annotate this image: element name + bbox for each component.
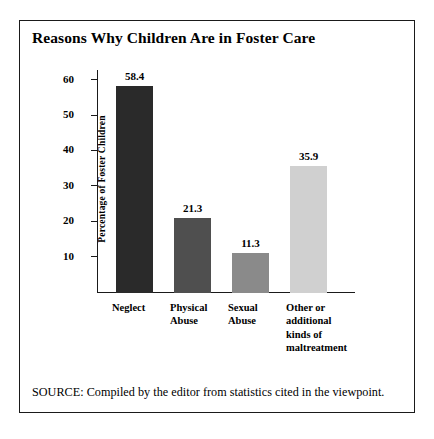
y-axis-tick-label: 50 — [34, 109, 74, 120]
y-axis-line — [97, 70, 98, 293]
y-axis-tick — [91, 221, 97, 222]
y-axis-tick — [91, 256, 97, 257]
bar — [290, 166, 327, 293]
source-note: SOURCE: Compiled by the editor from stat… — [32, 385, 384, 400]
y-axis-tick-label: 40 — [34, 144, 74, 155]
plot-area: Percentage of Foster Children 1020304050… — [78, 56, 398, 356]
chart-title: Reasons Why Children Are in Foster Care — [32, 29, 315, 47]
x-axis-category-label: Physical Abuse — [170, 301, 233, 328]
bar-value-label: 11.3 — [220, 237, 281, 249]
bar — [116, 86, 153, 293]
y-axis-tick-label: 20 — [34, 215, 74, 226]
y-axis-tick — [91, 115, 97, 116]
bar-value-label: 21.3 — [162, 202, 223, 214]
bar — [232, 253, 269, 293]
y-axis-label: Percentage of Foster Children — [97, 99, 107, 259]
x-axis-category-label: Sexual Abuse — [228, 301, 291, 328]
y-axis-tick — [91, 185, 97, 186]
y-axis-tick-label: 60 — [34, 74, 74, 85]
x-axis-category-label: Neglect — [112, 301, 175, 314]
figure-frame: Reasons Why Children Are in Foster Care … — [19, 20, 415, 413]
y-axis-tick — [91, 79, 97, 80]
x-axis-category-label: Other or additional kinds of maltreatmen… — [286, 301, 349, 355]
y-axis-tick-label: 30 — [34, 180, 74, 191]
bar — [174, 218, 211, 293]
bar-value-label: 58.4 — [104, 70, 165, 82]
y-axis-tick-label: 10 — [34, 251, 74, 262]
bar-value-label: 35.9 — [278, 150, 339, 162]
y-axis-tick — [91, 150, 97, 151]
